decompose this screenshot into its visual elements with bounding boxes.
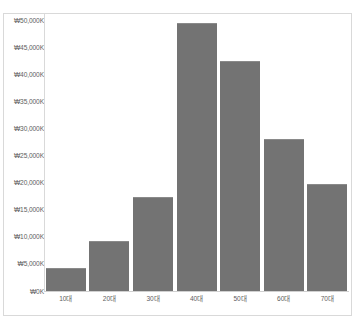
y-axis-tick-label: ₩50,000K <box>4 17 44 24</box>
y-axis-tick-label: ₩0K <box>4 288 44 295</box>
y-axis-tick-label: ₩40,000K <box>4 71 44 78</box>
bar-group <box>46 20 86 291</box>
x-axis: 10대20대30대40대50대60대70대 <box>44 294 349 308</box>
x-axis-tick-label: 40대 <box>177 294 217 304</box>
bar[interactable] <box>264 139 304 291</box>
y-axis: ₩0K₩5,000K₩10,000K₩15,000K₩20,000K₩25,00… <box>4 13 44 298</box>
y-axis-tick-label: ₩20,000K <box>4 179 44 186</box>
x-axis-tick-label: 10대 <box>46 294 86 304</box>
bar[interactable] <box>177 23 217 291</box>
x-axis-tick-label: 50대 <box>220 294 260 304</box>
bar-chart-figure: ₩0K₩5,000K₩10,000K₩15,000K₩20,000K₩25,00… <box>0 0 356 325</box>
bar[interactable] <box>133 197 173 291</box>
x-axis-tick-label: 70대 <box>307 294 347 304</box>
bar-group <box>177 20 217 291</box>
bar-group <box>220 20 260 291</box>
y-axis-tick-label: ₩35,000K <box>4 98 44 105</box>
bar-group <box>307 20 347 291</box>
x-axis-tick-label: 60대 <box>264 294 304 304</box>
y-axis-tick-label: ₩30,000K <box>4 125 44 132</box>
y-axis-tick-label: ₩25,000K <box>4 152 44 159</box>
y-axis-tick-label: ₩15,000K <box>4 206 44 213</box>
bar[interactable] <box>46 268 86 291</box>
x-axis-tick-label: 30대 <box>133 294 173 304</box>
bar-group <box>89 20 129 291</box>
bars-layer <box>44 20 349 291</box>
bar[interactable] <box>89 241 129 291</box>
bar[interactable] <box>220 61 260 291</box>
y-axis-tick-label: ₩45,000K <box>4 44 44 51</box>
y-axis-tick-label: ₩5,000K <box>4 260 44 267</box>
x-axis-tick-label: 20대 <box>89 294 129 304</box>
chart-title <box>0 0 356 4</box>
bar-group <box>133 20 173 291</box>
y-axis-tick-label: ₩10,000K <box>4 233 44 240</box>
x-axis-line <box>44 291 349 292</box>
bar[interactable] <box>307 184 347 291</box>
bar-group <box>264 20 304 291</box>
